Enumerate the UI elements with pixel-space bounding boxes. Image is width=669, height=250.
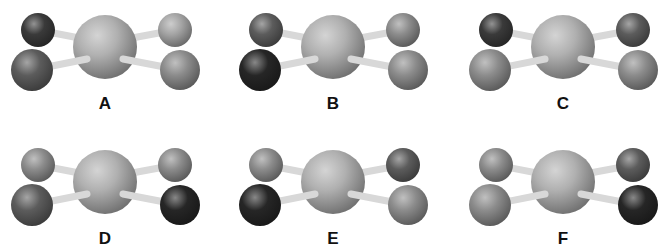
atom-left-top (21, 148, 55, 182)
atom-right-bottom (388, 50, 428, 90)
atom-left-bottom (469, 49, 511, 91)
atom-right-bottom (618, 50, 658, 90)
atom-right-top (386, 13, 420, 47)
molecule-d: D (11, 148, 200, 248)
atom-left-bottom (239, 49, 281, 91)
molecule-e: E (239, 148, 428, 248)
atom-right-bottom (160, 185, 200, 225)
atom-left-top (479, 148, 513, 182)
atom-left-top (21, 13, 55, 47)
atom-right-top (158, 13, 192, 47)
atom-left-bottom (239, 184, 281, 226)
atom-right-bottom (388, 185, 428, 225)
atom-left-bottom (469, 184, 511, 226)
atom-right-top (386, 148, 420, 182)
central-atom (531, 15, 595, 79)
molecule-label: A (99, 94, 111, 113)
molecule-label: C (557, 94, 569, 113)
molecule-label: D (99, 229, 111, 248)
molecule-diagram: ABCDEF (0, 0, 669, 250)
atom-right-bottom (618, 185, 658, 225)
central-atom (301, 150, 365, 214)
molecule-label: E (327, 229, 338, 248)
atom-left-top (479, 13, 513, 47)
molecule-label: B (327, 94, 339, 113)
molecule-a: A (11, 13, 200, 113)
molecule-b: B (239, 13, 428, 113)
central-atom (73, 15, 137, 79)
atom-left-top (249, 13, 283, 47)
atom-right-top (158, 148, 192, 182)
atom-left-top (249, 148, 283, 182)
atom-right-top (616, 148, 650, 182)
molecule-label: F (558, 229, 568, 248)
central-atom (73, 150, 137, 214)
atom-right-top (616, 13, 650, 47)
molecule-c: C (469, 13, 658, 113)
atom-left-bottom (11, 184, 53, 226)
atom-left-bottom (11, 49, 53, 91)
atom-right-bottom (160, 50, 200, 90)
central-atom (531, 150, 595, 214)
molecule-f: F (469, 148, 658, 248)
central-atom (301, 15, 365, 79)
